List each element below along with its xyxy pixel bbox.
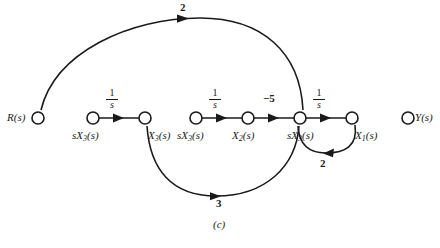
- node-label-r: R(s): [7, 112, 25, 123]
- node-label-sx3-a-main: sX: [72, 129, 83, 141]
- node-label-y-paren: (s): [421, 111, 433, 123]
- node-x3[interactable]: [139, 112, 151, 124]
- edge-gain-x3-to-junction: 3: [216, 198, 222, 209]
- node-label-x2-main: X: [232, 129, 239, 141]
- signal-flow-graph-figure: R(s) sX3(s) X3(s) sX3(s) X2(s) sX3(s) X1…: [0, 0, 440, 248]
- edge-gain-junction-to-x1: 1 s: [313, 88, 325, 110]
- node-label-sx3-c: sX3(s): [287, 130, 314, 143]
- figure-caption: (c): [213, 218, 225, 230]
- edge-sx3a-to-x3: [99, 114, 140, 123]
- arrowhead-junction-to-x1: [320, 114, 331, 123]
- edge-gain-sx3b-to-x2-numerator: 1: [209, 88, 221, 98]
- node-label-x1-paren: (s): [366, 129, 378, 141]
- edge-x2-to-junction: [254, 114, 295, 123]
- arrowhead-sx3a-to-x3: [113, 114, 124, 123]
- node-label-x3-paren: (s): [159, 129, 171, 141]
- node-label-r-paren: (s): [14, 111, 26, 123]
- node-label-sx3-a-paren: (s): [87, 129, 99, 141]
- edge-gain-sx3a-to-x3: 1 s: [106, 88, 118, 110]
- node-sx3-c[interactable]: [294, 112, 306, 124]
- node-label-sx3-a: sX3(s): [72, 130, 99, 143]
- edge-gain-sx3a-to-x3-numerator: 1: [106, 88, 118, 98]
- edge-gain-x1-to-junction-loop: 2: [320, 158, 326, 169]
- edge-junction-to-x1: [306, 114, 347, 123]
- arrowhead-r-to-junction: [177, 14, 189, 22]
- arrowhead-x2-to-junction: [268, 114, 279, 123]
- node-x1[interactable]: [346, 112, 358, 124]
- node-label-x1-main: X: [355, 129, 362, 141]
- node-r[interactable]: [32, 112, 44, 124]
- node-label-r-main: R: [7, 111, 14, 123]
- node-label-x3-main: X: [148, 129, 155, 141]
- edge-gain-junction-to-x1-numerator: 1: [313, 88, 325, 98]
- arrowhead-x1-to-junction-loop: [323, 149, 334, 158]
- node-label-sx3-b-paren: (s): [192, 129, 204, 141]
- edge-gain-junction-to-x1-denominator: s: [313, 100, 325, 110]
- node-label-sx3-b: sX3(s): [177, 130, 204, 143]
- node-label-x2-paren: (s): [243, 129, 255, 141]
- node-label-sx3-c-paren: (s): [302, 129, 314, 141]
- signal-flow-graph-canvas: [0, 0, 440, 248]
- node-y[interactable]: [402, 112, 414, 124]
- node-label-x2: X2(s): [232, 130, 254, 143]
- node-label-x1: X1(s): [355, 130, 377, 143]
- node-label-sx3-c-main: sX: [287, 129, 298, 141]
- arrowhead-sx3b-to-x2: [216, 114, 227, 123]
- node-label-sx3-b-main: sX: [177, 129, 188, 141]
- edge-sx3b-to-x2: [202, 114, 243, 123]
- edge-gain-r-to-junction: 2: [180, 2, 186, 13]
- edge-gain-x2-to-junction: −5: [263, 93, 275, 104]
- node-sx3-b[interactable]: [190, 112, 202, 124]
- node-x2[interactable]: [242, 112, 254, 124]
- node-sx3-a[interactable]: [87, 112, 99, 124]
- edge-gain-sx3b-to-x2-denominator: s: [209, 100, 221, 110]
- node-label-x3: X3(s): [148, 130, 170, 143]
- edge-gain-sx3b-to-x2: 1 s: [209, 88, 221, 110]
- edge-gain-sx3a-to-x3-denominator: s: [106, 100, 118, 110]
- node-label-y: Y(s): [415, 112, 433, 123]
